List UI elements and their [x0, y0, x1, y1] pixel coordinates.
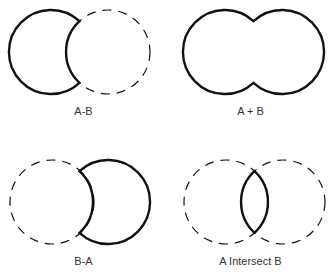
venn-diagram-canvas [0, 0, 334, 280]
label-b-minus-a: B-A [0, 255, 167, 267]
label-a-intersect-b: A Intersect B [167, 255, 334, 267]
panel-a-intersect-b [184, 160, 325, 244]
panel-a-plus-b [183, 10, 324, 94]
panel-b-minus-a [10, 160, 150, 244]
panel-a-minus-b [9, 10, 150, 94]
region-b-minus-a-outline [80, 160, 151, 244]
region-a-plus-b-outline [183, 10, 324, 94]
label-a-plus-b: A + B [167, 105, 334, 117]
region-a-minus-b-outline [9, 10, 80, 94]
label-a-minus-b: A-B [0, 105, 167, 117]
region-intersection-outline [241, 171, 268, 233]
